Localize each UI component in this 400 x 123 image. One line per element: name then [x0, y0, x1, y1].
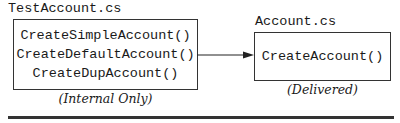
method-create-simple-account: CreateSimpleAccount()	[20, 26, 190, 45]
test-account-caption: (Internal Only)	[13, 92, 198, 106]
test-account-box: CreateSimpleAccount() CreateDefaultAccou…	[13, 19, 198, 90]
account-file-label: Account.cs	[255, 15, 336, 29]
test-account-file-label: TestAccount.cs	[8, 2, 121, 16]
method-create-account: CreateAccount()	[262, 47, 384, 66]
account-box: CreateAccount()	[254, 32, 391, 81]
account-caption: (Delivered)	[254, 83, 391, 97]
method-create-dup-account: CreateDupAccount()	[33, 64, 179, 83]
dependency-arrow-icon	[197, 49, 255, 61]
bottom-divider	[8, 116, 394, 119]
method-create-default-account: CreateDefaultAccount()	[16, 45, 194, 64]
